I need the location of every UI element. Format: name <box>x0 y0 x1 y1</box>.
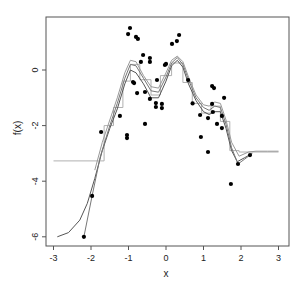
x-axis-title: x <box>164 268 169 279</box>
x-tick-label: -2 <box>87 253 95 263</box>
data-point <box>132 81 136 85</box>
data-point <box>211 110 215 114</box>
data-point <box>125 136 129 140</box>
data-point <box>141 53 145 57</box>
data-point <box>191 101 195 105</box>
data-point <box>206 150 210 154</box>
data-point <box>148 60 152 64</box>
data-point <box>215 122 219 126</box>
series-smooth-fit-3 <box>95 56 279 170</box>
data-point <box>136 37 140 41</box>
data-point <box>135 91 139 95</box>
data-point <box>236 162 240 166</box>
data-point <box>170 42 174 46</box>
data-point <box>222 96 226 100</box>
data-point <box>212 86 216 90</box>
data-point <box>175 39 179 43</box>
data-point <box>210 102 214 106</box>
x-tick-label: 1 <box>201 253 206 263</box>
plot-area <box>46 17 289 246</box>
data-point <box>118 114 122 118</box>
y-tick-label: 0 <box>30 67 40 72</box>
series-smooth-fit-2 <box>84 58 250 237</box>
plot-frame <box>46 17 289 246</box>
data-point <box>220 114 224 118</box>
data-point <box>90 194 94 198</box>
data-point <box>143 122 147 126</box>
data-point <box>148 56 152 60</box>
chart: -3-2-10123 0-2-4-6 x f(x) <box>0 0 304 289</box>
series-smooth-fit-1 <box>57 60 252 237</box>
y-axis-title: f(x) <box>12 121 23 135</box>
data-point <box>160 106 164 110</box>
x-tick-label: 2 <box>238 253 243 263</box>
data-point <box>154 105 158 109</box>
data-point <box>139 60 143 64</box>
data-point <box>160 102 164 106</box>
y-tick-label: -4 <box>30 177 40 185</box>
data-point <box>82 235 86 239</box>
y-axis: 0-2-4-6 <box>30 67 46 240</box>
data-point <box>128 26 132 30</box>
data-point <box>177 33 181 37</box>
data-point <box>220 126 224 130</box>
data-point <box>164 62 168 66</box>
x-tick-label: -3 <box>49 253 57 263</box>
data-point <box>206 116 210 120</box>
data-point <box>154 101 158 105</box>
data-point <box>229 182 233 186</box>
x-tick-label: -1 <box>124 253 132 263</box>
x-tick-label: 0 <box>163 253 168 263</box>
fit-lines <box>54 56 279 237</box>
data-point <box>155 78 159 82</box>
data-point <box>198 113 202 117</box>
data-point <box>186 78 190 82</box>
y-tick-label: -2 <box>30 122 40 130</box>
data-point <box>99 130 103 134</box>
data-point <box>248 153 252 157</box>
data-point <box>143 90 147 94</box>
data-point <box>148 97 152 101</box>
data-point <box>199 135 203 139</box>
x-axis: -3-2-10123 <box>49 246 281 263</box>
data-point <box>126 32 130 36</box>
y-tick-label: -6 <box>30 233 40 241</box>
x-tick-label: 3 <box>276 253 281 263</box>
